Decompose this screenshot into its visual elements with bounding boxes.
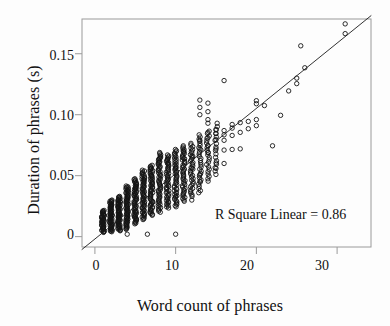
x-axis-title: Word count of phrases	[95, 297, 325, 315]
y-tick-label-3: 0.15	[14, 48, 74, 64]
x-tick-label-2: 20	[225, 258, 269, 274]
data-points	[99, 22, 347, 237]
y-tick-label-2: 0.10	[14, 108, 74, 124]
r-square-annotation: R Square Linear = 0.86	[215, 207, 346, 223]
x-tick-label-1: 10	[150, 258, 194, 274]
y-tick-label-1: 0.05	[14, 168, 74, 184]
x-tick-label-3: 30	[300, 258, 344, 274]
y-axis-title: Duration of phrases (s)	[25, 40, 43, 240]
x-tick-label-0: 0	[74, 258, 118, 274]
scatter-plot-figure: Duration of phrases (s) Word count of ph…	[0, 0, 390, 326]
y-tick-label-0: 0	[14, 227, 74, 243]
